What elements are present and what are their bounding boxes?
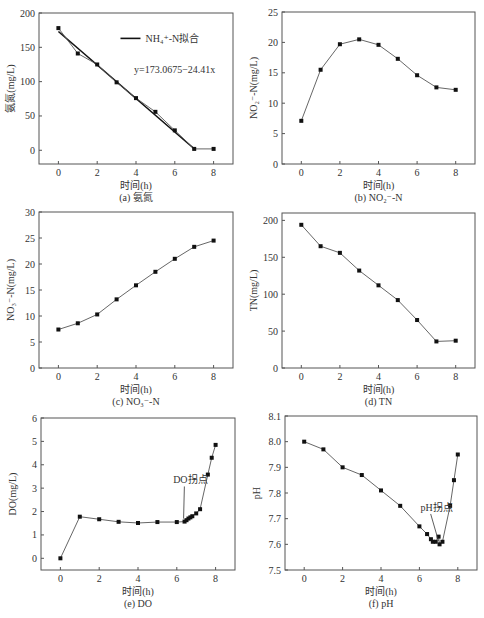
y-axis-label: NO₂⁻-N(mg/L) — [248, 57, 260, 119]
y-tick-label: 50 — [268, 326, 278, 337]
legend-label: NH₄⁺-N拟合 — [145, 32, 199, 44]
data-point-marker — [452, 478, 456, 482]
x-tick-label: 4 — [379, 573, 384, 584]
x-axis-label: 时间(h) — [365, 585, 397, 598]
x-axis-label: 时间(h) — [120, 179, 152, 192]
panel-caption: (d) TN — [365, 396, 392, 408]
x-axis-label: 时间(h) — [122, 585, 154, 598]
data-point-marker — [299, 223, 303, 227]
chart-panel-c: 02468051015202530时间(h)(c) NO₃⁻-NNO₃⁻-N(m… — [5, 207, 233, 409]
plot-frame — [39, 13, 233, 164]
data-point-marker — [398, 504, 402, 508]
y-tick-label: 6 — [32, 413, 37, 424]
y-tick-label: 15 — [268, 67, 278, 78]
inflection-label: DO拐点 — [173, 473, 207, 485]
data-point-marker — [95, 312, 99, 316]
y-axis-label: pH — [251, 487, 262, 499]
y-axis-label: TN(mg/L) — [248, 270, 260, 312]
plot-frame — [39, 212, 233, 368]
data-point-marker — [299, 119, 303, 123]
panel-caption: (b) NO₂⁻-N — [355, 192, 403, 204]
x-tick-label: 2 — [337, 371, 342, 382]
data-point-marker — [440, 540, 444, 544]
data-point-marker — [214, 443, 218, 447]
x-tick-label: 8 — [211, 167, 216, 178]
x-tick-label: 2 — [340, 573, 345, 584]
data-point-marker — [360, 473, 364, 477]
plot-frame — [285, 416, 477, 570]
y-tick-label: 7.5 — [269, 565, 282, 576]
data-point-marker — [173, 128, 177, 132]
y-axis-label: 氨氮(mg/L) — [4, 64, 17, 112]
x-tick-label: 4 — [134, 371, 139, 382]
x-tick-label: 6 — [172, 167, 177, 178]
y-tick-label: 7.6 — [269, 539, 282, 550]
plot-frame — [41, 418, 235, 570]
data-point-marker — [192, 245, 196, 249]
data-point-marker — [58, 556, 62, 560]
chart-panel-a: 02468050100150200时间(h)(a) 氨氮氨氮(mg/L)NH₄⁺… — [4, 8, 233, 205]
data-point-marker — [357, 269, 361, 273]
y-tick-label: 7.8 — [269, 488, 282, 499]
data-point-marker — [357, 37, 361, 41]
chart-panel-e: 024680123456时间(h)(e) DODO(mg/L)DO拐点 — [7, 413, 235, 611]
data-point-marker — [117, 520, 121, 524]
x-axis-label: 时间(h) — [363, 179, 395, 192]
data-point-marker — [175, 520, 179, 524]
y-tick-label: 7.7 — [269, 513, 282, 524]
x-tick-label: 6 — [172, 371, 177, 382]
panel-caption: (e) DO — [124, 598, 152, 610]
x-tick-label: 6 — [415, 167, 420, 178]
y-tick-label: 4 — [32, 459, 37, 470]
y-tick-label: 8.0 — [269, 436, 282, 447]
x-tick-label: 0 — [56, 167, 61, 178]
data-point-marker — [454, 339, 458, 343]
x-tick-label: 2 — [95, 167, 100, 178]
x-tick-label: 0 — [299, 167, 304, 178]
x-tick-label: 2 — [97, 573, 102, 584]
y-tick-label: 100 — [263, 289, 278, 300]
x-axis-label: 时间(h) — [120, 383, 152, 396]
plot-frame — [282, 213, 475, 368]
x-tick-label: 8 — [453, 167, 458, 178]
plot-frame — [282, 12, 475, 164]
data-point-marker — [319, 244, 323, 248]
x-tick-label: 0 — [58, 573, 63, 584]
y-tick-label: 200 — [263, 215, 278, 226]
data-point-marker — [115, 297, 119, 301]
data-point-marker — [319, 68, 323, 72]
data-point-marker — [153, 270, 157, 274]
x-tick-label: 6 — [415, 371, 420, 382]
x-tick-label: 8 — [211, 371, 216, 382]
x-tick-label: 4 — [136, 573, 141, 584]
y-tick-label: 5 — [273, 128, 278, 139]
y-tick-label: 7.9 — [269, 462, 282, 473]
data-point-marker — [456, 453, 460, 457]
y-tick-label: 25 — [25, 233, 35, 244]
data-point-marker — [76, 321, 80, 325]
y-tick-label: 5 — [30, 337, 35, 348]
y-tick-label: 0 — [30, 145, 35, 156]
x-tick-label: 2 — [95, 371, 100, 382]
data-point-marker — [115, 80, 119, 84]
y-tick-label: 150 — [263, 252, 278, 263]
data-point-marker — [136, 521, 140, 525]
x-tick-label: 6 — [417, 573, 422, 584]
y-tick-label: 0 — [30, 363, 35, 374]
data-point-marker — [434, 540, 438, 544]
data-point-marker — [76, 51, 80, 55]
x-tick-label: 0 — [299, 371, 304, 382]
data-point-marker — [302, 440, 306, 444]
data-point-marker — [377, 283, 381, 287]
panel-caption: (a) 氨氮 — [119, 191, 153, 204]
data-point-marker — [210, 456, 214, 460]
data-point-marker — [341, 465, 345, 469]
x-tick-label: 4 — [134, 167, 139, 178]
panel-caption: (c) NO₃⁻-N — [112, 396, 159, 408]
y-tick-label: 8.1 — [269, 411, 282, 422]
data-point-marker — [415, 73, 419, 77]
y-tick-label: 30 — [25, 207, 35, 218]
inflection-arrow — [184, 486, 185, 518]
data-point-marker — [379, 488, 383, 492]
series-line — [60, 445, 215, 558]
